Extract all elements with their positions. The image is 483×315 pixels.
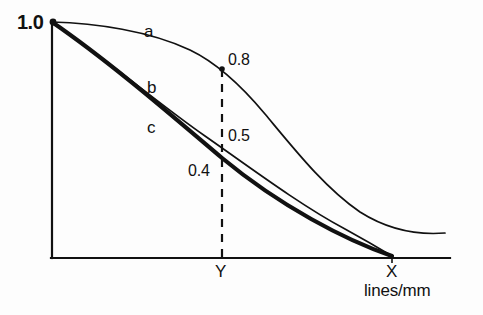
curve-label-a: a — [144, 23, 153, 40]
x-axis-units-label: lines/mm — [364, 282, 430, 299]
value-label-0-4: 0.4 — [188, 163, 210, 179]
curve-label-b: b — [147, 79, 156, 96]
x-axis-tick-label-x: X — [386, 263, 397, 280]
x-axis-tick-label-y: Y — [215, 263, 226, 280]
value-label-0-5: 0.5 — [228, 128, 250, 144]
curve-label-c: c — [147, 119, 156, 136]
marker-a-at-y — [219, 66, 225, 72]
value-label-0-8: 0.8 — [228, 52, 250, 68]
axes — [51, 22, 450, 258]
mtf-chart: 1.0 a b c 0.8 0.5 0.4 Y X lines/mm — [0, 0, 483, 315]
chart-canvas — [0, 0, 483, 315]
marker-origin — [50, 19, 57, 26]
y-axis-top-label: 1.0 — [17, 12, 43, 32]
